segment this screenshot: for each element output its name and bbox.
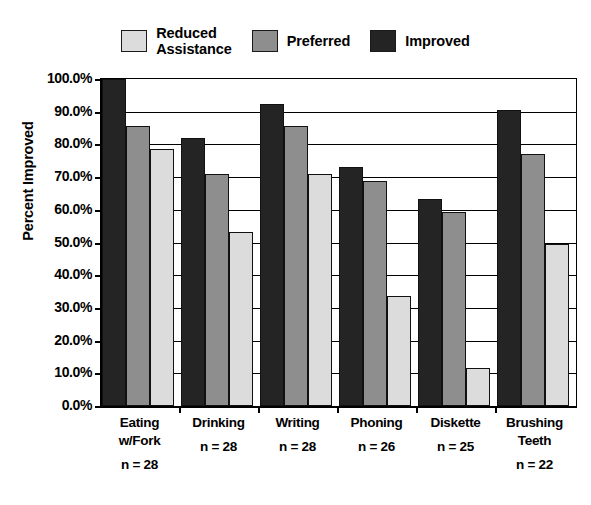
x-category-name: Brushing Teeth <box>495 414 574 450</box>
x-category-name: Eating w/Fork <box>100 414 179 450</box>
x-category-sample-size: n = 28 <box>100 456 179 474</box>
y-tick-mark <box>95 79 102 81</box>
y-tick-label: 50.0% <box>18 234 92 250</box>
y-tick-mark <box>95 341 102 343</box>
bar <box>260 104 284 406</box>
y-tick-label: 90.0% <box>18 103 92 119</box>
y-tick-mark <box>95 177 102 179</box>
bar <box>339 167 363 406</box>
y-tick-mark <box>95 144 102 146</box>
bar <box>521 154 545 406</box>
bar-group <box>102 79 181 406</box>
y-tick-label: 40.0% <box>18 266 92 282</box>
y-tick-label: 20.0% <box>18 332 92 348</box>
x-category-label: Disketten = 25 <box>416 410 495 500</box>
x-category-name: Diskette <box>416 414 495 432</box>
y-tick-mark <box>95 275 102 277</box>
x-category-name: Phoning <box>337 414 416 432</box>
bar <box>102 79 126 406</box>
x-category-sample-size: n = 28 <box>258 438 337 456</box>
x-category-label: Brushing Teethn = 22 <box>495 410 574 500</box>
bar-group <box>339 79 418 406</box>
y-tick-mark <box>95 210 102 212</box>
bar <box>284 126 308 406</box>
y-tick-mark <box>95 308 102 310</box>
bar-group <box>181 79 260 406</box>
x-category-sample-size: n = 22 <box>495 456 574 474</box>
x-category-name: Drinking <box>179 414 258 432</box>
x-axis-category-labels: Eating w/Forkn = 28Drinkingn = 28Writing… <box>100 410 574 500</box>
x-category-label: Writingn = 28 <box>258 410 337 500</box>
x-category-label: Phoningn = 26 <box>337 410 416 500</box>
bar <box>466 368 490 406</box>
y-tick-label: 30.0% <box>18 299 92 315</box>
bar <box>205 174 229 406</box>
bar <box>308 174 332 406</box>
bar <box>363 181 387 406</box>
y-tick-label: 10.0% <box>18 364 92 380</box>
bar-group <box>260 79 339 406</box>
y-tick-mark <box>95 373 102 375</box>
bar-group <box>497 79 576 406</box>
bar <box>497 110 521 406</box>
x-category-name: Writing <box>258 414 337 432</box>
bar <box>181 138 205 406</box>
bar <box>387 296 411 406</box>
y-tick-label: 0.0% <box>18 397 92 413</box>
y-tick-label: 100.0% <box>18 70 92 86</box>
bar-chart: Reduced Assistance Preferred Improved Pe… <box>0 0 591 505</box>
bar <box>418 199 442 406</box>
y-tick-mark <box>95 406 102 408</box>
x-category-sample-size: n = 25 <box>416 438 495 456</box>
bar <box>126 126 150 406</box>
x-category-label: Drinkingn = 28 <box>179 410 258 500</box>
y-tick-label: 70.0% <box>18 168 92 184</box>
x-category-sample-size: n = 28 <box>179 438 258 456</box>
bar-groups <box>102 79 576 406</box>
bar-group <box>418 79 497 406</box>
bar <box>150 149 174 406</box>
bar <box>229 232 253 406</box>
y-axis-tick-labels: 100.0%90.0%80.0%70.0%60.0%50.0%40.0%30.0… <box>18 0 92 505</box>
bar <box>545 244 569 406</box>
y-tick-label: 80.0% <box>18 135 92 151</box>
bar <box>442 212 466 406</box>
x-category-sample-size: n = 26 <box>337 438 416 456</box>
y-tick-label: 60.0% <box>18 201 92 217</box>
plot-area <box>100 78 577 408</box>
y-tick-mark <box>95 112 102 114</box>
y-tick-mark <box>95 243 102 245</box>
x-category-label: Eating w/Forkn = 28 <box>100 410 179 500</box>
